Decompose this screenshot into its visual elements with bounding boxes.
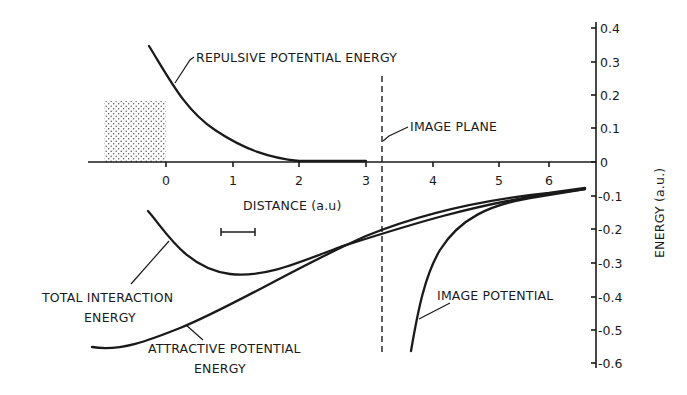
- total-interaction-label-line1: TOTAL INTERACTION: [41, 290, 173, 305]
- image-potential-leader: [419, 303, 450, 319]
- x-tick-label: 0: [162, 173, 170, 188]
- y-tick-label: 0.3: [600, 55, 620, 70]
- attractive-label-line2: ENERGY: [194, 361, 246, 376]
- image-plane-leader: [383, 127, 408, 141]
- y-axis-label: ENERGY (a.u.): [652, 168, 667, 258]
- image-potential-label: IMAGE POTENTIAL: [437, 288, 553, 303]
- repulsive-leader: [175, 57, 194, 83]
- y-tick-label: -0.6: [598, 356, 622, 371]
- scale-bar: [221, 228, 255, 236]
- x-axis-label: DISTANCE (a.u): [243, 198, 342, 213]
- x-tick-label: 5: [495, 173, 503, 188]
- y-tick-label: -0.2: [598, 222, 622, 237]
- energy-distance-diagram: 0 1 2 3 4 5 6 DISTANCE (a.u) 0.4 0.3 0.2…: [0, 0, 687, 395]
- total-interaction-label-line2: ENERGY: [84, 310, 136, 325]
- y-axis: 0.4 0.3 0.2 0.1 0 -0.1 -0.2 -0.3 -0.4 -0…: [591, 21, 667, 371]
- y-tick-label: 0: [600, 155, 608, 170]
- attractive-label-line1: ATTRACTIVE POTENTIAL: [148, 341, 301, 356]
- y-tick-label: 0.1: [600, 121, 620, 136]
- total-interaction-leader: [131, 241, 169, 284]
- y-tick-label: -0.3: [598, 256, 622, 271]
- x-tick-label: 2: [295, 173, 303, 188]
- x-tick-label: 1: [229, 173, 237, 188]
- attractive-leader: [186, 325, 203, 340]
- total-interaction-energy-curve: [148, 189, 585, 275]
- y-tick-label: 0.4: [600, 21, 620, 36]
- stippled-surface-region: [104, 101, 166, 162]
- x-tick-label: 6: [545, 173, 553, 188]
- y-tick-label: -0.5: [598, 323, 622, 338]
- x-tick-label: 3: [362, 173, 370, 188]
- y-tick-label: -0.4: [598, 290, 622, 305]
- y-tick-label: 0.2: [600, 88, 620, 103]
- repulsive-label: REPULSIVE POTENTIAL ENERGY: [196, 50, 397, 65]
- x-tick-label: 4: [429, 173, 437, 188]
- image-plane-label: IMAGE PLANE: [410, 119, 497, 134]
- y-tick-label: -0.1: [598, 189, 622, 204]
- x-axis: 0 1 2 3 4 5 6 DISTANCE (a.u): [88, 162, 596, 213]
